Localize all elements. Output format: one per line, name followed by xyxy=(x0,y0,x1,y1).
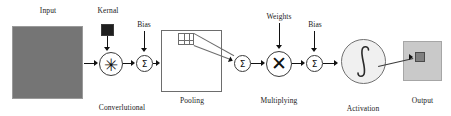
label-activation-function-line1: Activation xyxy=(331,105,395,114)
arrowhead-kernal-to-conv xyxy=(104,47,110,51)
sigma-icon: Σ xyxy=(312,59,318,69)
sigma-icon: Σ xyxy=(142,59,148,69)
label-kernal: Kernal xyxy=(85,6,131,15)
arrowhead-sum1-to-pooling xyxy=(156,60,160,66)
label-bias-1: Bias xyxy=(124,20,164,29)
summation-operator-2: Σ xyxy=(234,55,251,72)
connector-multiply-to-sum3 xyxy=(292,63,301,64)
arrowhead-conv-to-sum1 xyxy=(131,60,135,66)
summation-operator-1: Σ xyxy=(136,55,153,72)
label-output: Output xyxy=(399,96,446,105)
label-activation-function: Activation Function xyxy=(331,88,395,116)
arrowhead-weights-to-multiply xyxy=(276,45,282,49)
asterisk-icon: ✳ xyxy=(104,55,118,75)
cross-icon: ✕ xyxy=(271,52,287,74)
activation-operator xyxy=(341,39,386,84)
summation-operator-3: Σ xyxy=(306,55,323,72)
sigma-icon: Σ xyxy=(240,59,246,69)
arrowhead-sum2-to-multiply xyxy=(261,60,265,66)
connector-weights-to-multiply xyxy=(279,23,280,46)
cnn-pipeline-diagram: Input Kernal Bias Weights Bias ✳ Σ Σ ✕ Σ xyxy=(0,0,451,116)
arrowhead-input-to-conv xyxy=(94,60,98,66)
multiply-operator: ✕ xyxy=(266,51,292,77)
sigmoid-curve-icon xyxy=(342,40,385,83)
label-bias-2: Bias xyxy=(295,20,335,29)
arrowhead-multiply-to-sum3 xyxy=(301,60,305,66)
pooling-window-grid xyxy=(178,33,194,45)
arrowhead-activation-to-output xyxy=(409,54,413,60)
connector-conv-to-sum1 xyxy=(123,63,131,64)
output-pixel-block xyxy=(415,52,425,62)
arrowhead-bias2-to-sum3 xyxy=(311,48,317,52)
convolution-operator: ✳ xyxy=(99,52,123,76)
label-multiplying: Multiplying xyxy=(250,96,308,105)
arrowhead-bias1-to-sum1 xyxy=(141,48,147,52)
connector-sum3-to-activation xyxy=(323,63,334,64)
label-convolutional-operation-line1: Converlutional xyxy=(79,104,165,113)
connector-bias1-to-sum1 xyxy=(144,31,145,49)
label-convolutional-operation: Converlutional Operation xyxy=(79,87,165,116)
arrowhead-sum3-to-activation xyxy=(334,60,338,66)
connector-sum2-to-multiply xyxy=(251,63,261,64)
kernel-block xyxy=(101,24,114,36)
label-pooling: Pooling xyxy=(167,96,217,105)
label-input: Input xyxy=(22,6,74,15)
input-image-block xyxy=(12,26,83,99)
connector-bias2-to-sum3 xyxy=(314,31,315,49)
